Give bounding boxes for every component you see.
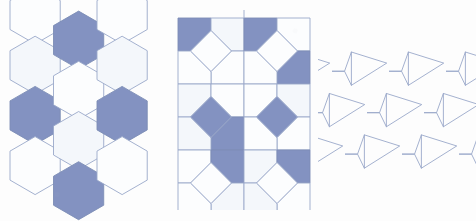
- arrow-tile-14: [459, 135, 476, 168]
- figure-arrow-zigzag-tiling: [0, 0, 476, 221]
- arrow-tile-8: [424, 93, 476, 126]
- tessellation-board: [0, 0, 476, 221]
- arrow-tile-13: [402, 135, 457, 168]
- arrow-zigzag-tiling-canvas: [0, 0, 476, 221]
- arrow-tile-1: [332, 52, 387, 85]
- arrow-tile-2: [389, 52, 444, 85]
- arrow-tile-0: [275, 52, 330, 85]
- arrow-tile-3: [446, 52, 476, 85]
- arrow-tile-7: [367, 93, 422, 126]
- arrow-tile-5: [253, 93, 308, 126]
- arrow-tile-10: [231, 135, 286, 168]
- arrow-tile-6: [310, 93, 365, 126]
- clip-arrow-group: [231, 52, 476, 168]
- arrow-tile-12: [345, 135, 400, 168]
- arrow-tile-11: [288, 135, 343, 168]
